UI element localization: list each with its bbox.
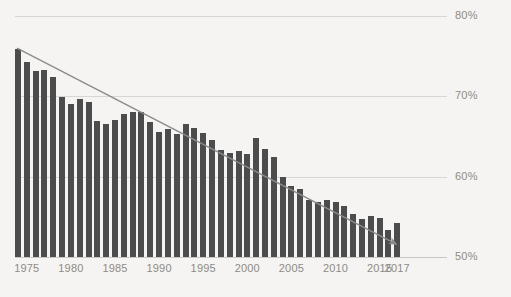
bar-1982 bbox=[86, 102, 92, 257]
bar-1979 bbox=[59, 97, 65, 257]
x-tick-label-2000: 2000 bbox=[235, 262, 260, 274]
bar-1997 bbox=[218, 150, 224, 257]
bar-1986 bbox=[121, 114, 127, 257]
bar-2014 bbox=[368, 216, 374, 257]
x-tick-label-1990: 1990 bbox=[146, 262, 171, 274]
bar-2015 bbox=[377, 218, 383, 257]
bar-1984 bbox=[103, 124, 109, 257]
bar-1981 bbox=[77, 99, 83, 257]
x-tick-label-2005: 2005 bbox=[279, 262, 304, 274]
bar-1975 bbox=[24, 62, 30, 257]
bar-2001 bbox=[253, 138, 259, 257]
bar-2011 bbox=[341, 206, 347, 257]
x-tick-label-2010: 2010 bbox=[323, 262, 348, 274]
bar-1994 bbox=[191, 128, 197, 257]
chart-container: 80%70%60%50% 197519801985199019952000200… bbox=[0, 0, 511, 297]
bar-1995 bbox=[200, 133, 206, 257]
bar-1974 bbox=[15, 49, 21, 257]
bar-2003 bbox=[271, 157, 277, 257]
bar-1987 bbox=[130, 112, 136, 257]
bar-2010 bbox=[333, 202, 339, 257]
bar-1980 bbox=[68, 104, 74, 257]
bar-2012 bbox=[350, 214, 356, 257]
bar-2002 bbox=[262, 149, 268, 257]
bar-1985 bbox=[112, 120, 118, 257]
bar-1996 bbox=[209, 140, 215, 257]
bar-1983 bbox=[94, 121, 100, 257]
bar-2013 bbox=[359, 219, 365, 257]
x-tick-label-1975: 1975 bbox=[14, 262, 39, 274]
bar-1992 bbox=[174, 134, 180, 257]
bar-2016 bbox=[385, 230, 391, 257]
x-tick-label-1985: 1985 bbox=[102, 262, 127, 274]
x-tick-label-2017: 2017 bbox=[385, 262, 410, 274]
bar-2017 bbox=[394, 223, 400, 257]
bar-2004 bbox=[280, 177, 286, 257]
x-tick-label-1995: 1995 bbox=[191, 262, 216, 274]
bar-2009 bbox=[324, 200, 330, 257]
bar-1990 bbox=[156, 132, 162, 257]
bar-1978 bbox=[50, 77, 56, 257]
bar-2006 bbox=[297, 189, 303, 257]
bar-1988 bbox=[138, 112, 144, 257]
bar-1999 bbox=[236, 151, 242, 257]
bar-2007 bbox=[306, 200, 312, 257]
bar-1989 bbox=[147, 122, 153, 257]
bar-1991 bbox=[165, 129, 171, 257]
x-tick-label-1980: 1980 bbox=[58, 262, 83, 274]
bar-2000 bbox=[244, 154, 250, 257]
bar-1976 bbox=[33, 71, 39, 257]
bar-2008 bbox=[315, 202, 321, 257]
bar-2005 bbox=[288, 186, 294, 257]
bar-1993 bbox=[183, 124, 189, 257]
bar-series bbox=[0, 0, 511, 297]
bar-1977 bbox=[41, 70, 47, 257]
bar-1998 bbox=[227, 153, 233, 257]
